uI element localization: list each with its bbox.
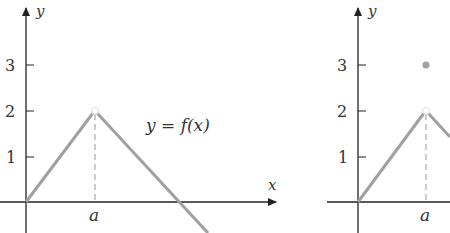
- right-tick-2: 2: [337, 102, 347, 121]
- right-tick-1: 1: [338, 148, 348, 167]
- left-tick-2: 2: [5, 102, 15, 121]
- left-curve: [26, 113, 93, 202]
- left-open-point: [92, 108, 99, 115]
- left-tick-3: 3: [5, 56, 15, 75]
- right-open-point: [423, 108, 430, 115]
- right-a-label: a: [420, 205, 430, 225]
- diagram-canvas: y x 3 2 1 a y = f(x) y 3 2 1 a: [0, 0, 450, 233]
- right-curve-right: [428, 113, 450, 137]
- left-tick-1: 1: [6, 148, 16, 167]
- right-curve: [358, 113, 424, 202]
- left-x-label: x: [268, 176, 277, 194]
- function-label: y = f(x): [145, 115, 210, 135]
- right-tick-3: 3: [337, 56, 347, 75]
- right-y-ticks: [358, 65, 366, 157]
- right-y-label: y: [367, 2, 377, 20]
- left-a-label: a: [89, 205, 99, 225]
- left-graph: [0, 8, 276, 233]
- left-y-ticks: [26, 65, 34, 157]
- right-filled-point: [423, 62, 430, 69]
- left-y-label: y: [35, 2, 45, 20]
